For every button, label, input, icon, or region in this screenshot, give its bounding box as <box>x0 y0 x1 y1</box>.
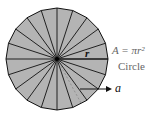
polygon-circle-figure <box>0 0 151 118</box>
circle-area-diagram: A = πr² Circle r a <box>0 0 151 118</box>
apothem-label: a <box>115 81 121 96</box>
radius-label: r <box>85 47 89 59</box>
formula-label: A = πr² <box>112 44 145 56</box>
shape-name-label: Circle <box>118 60 145 72</box>
